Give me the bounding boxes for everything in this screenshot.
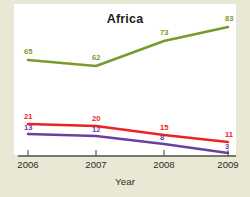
x-tick-label-2006: 2006 (8, 159, 48, 170)
x-axis-title: Year (0, 176, 250, 187)
series-line-purple (28, 134, 228, 153)
data-label-purple-2006: 13 (24, 123, 32, 132)
data-label-green-2008: 73 (160, 28, 168, 37)
data-label-green-2009: 83 (225, 14, 233, 23)
data-label-red-2009: 11 (225, 130, 234, 139)
x-tick-label-2009: 2009 (208, 159, 248, 170)
data-label-purple-2009: 3 (225, 142, 229, 151)
data-label-green-2007: 62 (92, 53, 100, 62)
data-label-purple-2008: 8 (160, 133, 164, 142)
data-label-red-2007: 20 (92, 114, 100, 123)
data-label-purple-2007: 12 (92, 125, 100, 134)
series-line-green (28, 27, 228, 66)
data-label-red-2008: 15 (160, 123, 169, 132)
data-label-red-2006: 21 (24, 112, 33, 121)
data-label-green-2006: 65 (24, 47, 33, 56)
chart-figure: Africa 65 62 73 83 21 20 15 11 13 12 8 3… (0, 0, 250, 197)
x-tick-label-2008: 2008 (144, 159, 184, 170)
x-tick-label-2007: 2007 (76, 159, 116, 170)
